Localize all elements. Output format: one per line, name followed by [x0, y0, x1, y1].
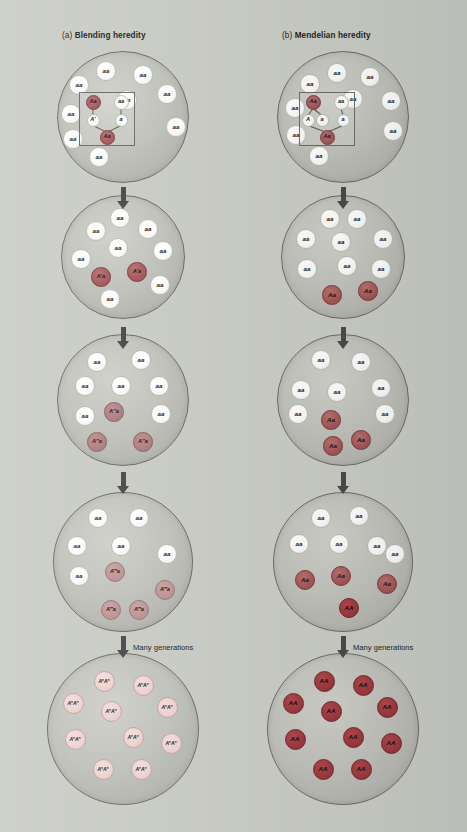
individual-Aa: A″a: [104, 402, 124, 422]
individual-aa: aa: [311, 508, 331, 528]
inset-gamete-2: a: [115, 114, 128, 127]
individual-aa: aa: [371, 259, 391, 279]
individual-aa: aa: [327, 382, 347, 402]
individual-AA: AA: [285, 729, 306, 750]
individual-AA: AA: [321, 701, 342, 722]
individual-aa: aa: [131, 350, 151, 370]
individual-AnAn: AnAn: [131, 759, 152, 780]
individual-aa: aa: [157, 84, 177, 104]
individual-Aa: Aa: [323, 436, 343, 456]
inset-parent-1: Aa: [306, 95, 321, 110]
inset-gamete-2: a: [316, 114, 329, 127]
individual-aa: aa: [349, 506, 369, 526]
arrow-shaft: [121, 472, 126, 486]
inset-gamete-1: A: [302, 114, 315, 127]
generation-arrow: [337, 327, 350, 349]
panel-a-title: (a) Blending heredity: [62, 31, 146, 40]
individual-aa: aa: [111, 376, 131, 396]
arrow-head: [337, 341, 349, 349]
individual-Aa: A‴a: [155, 580, 175, 600]
individual-aa: aa: [87, 352, 107, 372]
individual-aa: aa: [367, 536, 387, 556]
individual-aa: aa: [383, 121, 403, 141]
individual-AnAn: AnAn: [101, 701, 122, 722]
many-generations-label-a: Many generations: [133, 643, 193, 652]
panel-a-title-text: Blending heredity: [75, 31, 146, 40]
generation-arrow: [117, 472, 130, 494]
arrow-shaft: [341, 327, 346, 341]
generation-arrow: [117, 327, 130, 349]
individual-aa: aa: [138, 219, 158, 239]
individual-aa: aa: [71, 249, 91, 269]
arrow-shaft: [341, 636, 346, 650]
individual-Aa: Aa: [358, 281, 378, 301]
individual-aa: aa: [166, 117, 186, 137]
individual-aa: aa: [311, 350, 331, 370]
individual-aa: aa: [351, 352, 371, 372]
individual-AnAn: AnAn: [93, 759, 114, 780]
individual-aa: aa: [320, 209, 340, 229]
inset-parent-2: aa: [114, 95, 129, 110]
arrow-head: [337, 486, 349, 494]
individual-aa: aa: [373, 229, 393, 249]
population-circle: [57, 334, 189, 466]
individual-aa: aa: [300, 74, 320, 94]
individual-aa: aa: [375, 404, 395, 424]
individual-aa: aa: [157, 544, 177, 564]
inset-parent-2: aa: [334, 95, 349, 110]
individual-AA: AA: [339, 598, 359, 618]
individual-aa: aa: [329, 534, 349, 554]
heredity-comparison-figure: (a) Blending heredity (b) Mendelian here…: [0, 0, 467, 832]
individual-Aa: A″a: [87, 432, 107, 452]
individual-aa: aa: [150, 275, 170, 295]
individual-aa: aa: [133, 65, 153, 85]
individual-aa: aa: [381, 91, 401, 111]
individual-aa: aa: [296, 229, 316, 249]
individual-Aa: Aa: [322, 285, 342, 305]
panel-b-title: (b) Mendelian heredity: [282, 31, 371, 40]
panel-a-prefix: (a): [62, 31, 72, 40]
individual-aa: aa: [61, 104, 81, 124]
individual-aa: aa: [347, 209, 367, 229]
generation-arrow: [337, 472, 350, 494]
individual-Aa: A‴a: [101, 600, 121, 620]
arrow-head: [337, 650, 349, 658]
individual-AA: AA: [353, 675, 374, 696]
generation-arrow: [117, 187, 130, 209]
individual-aa: aa: [75, 406, 95, 426]
individual-aa: aa: [129, 508, 149, 528]
population-circle: [47, 653, 199, 805]
generation-arrow: [337, 187, 350, 209]
individual-aa: aa: [331, 232, 351, 252]
population-circle: [267, 653, 419, 805]
individual-aa: aa: [88, 508, 108, 528]
individual-aa: aa: [67, 536, 87, 556]
individual-Aa: Aa: [351, 430, 371, 450]
individual-Aa: A'a: [127, 262, 147, 282]
generation-arrow: [117, 636, 130, 658]
arrow-shaft: [341, 472, 346, 486]
arrow-head: [337, 201, 349, 209]
individual-aa: aa: [86, 221, 106, 241]
arrow-head: [117, 341, 129, 349]
individual-AA: AA: [377, 697, 398, 718]
individual-AnAn: AnAn: [65, 729, 86, 750]
individual-Aa: Aa: [331, 566, 351, 586]
generation-arrow: [337, 636, 350, 658]
individual-AA: AA: [343, 727, 364, 748]
individual-AA: AA: [313, 759, 334, 780]
individual-AnAn: AnAn: [157, 697, 178, 718]
individual-aa: aa: [309, 146, 329, 166]
many-generations-label-b: Many generations: [353, 643, 413, 652]
individual-Aa: Aa: [321, 410, 341, 430]
arrow-shaft: [121, 327, 126, 341]
individual-aa: aa: [110, 208, 130, 228]
individual-aa: aa: [360, 67, 380, 87]
individual-aa: aa: [385, 544, 405, 564]
individual-AnAn: AnAn: [94, 671, 115, 692]
inset-offspring: Aa: [100, 130, 115, 145]
arrow-head: [117, 650, 129, 658]
arrow-shaft: [121, 187, 126, 201]
individual-AA: AA: [314, 671, 335, 692]
individual-AA: AA: [351, 759, 372, 780]
